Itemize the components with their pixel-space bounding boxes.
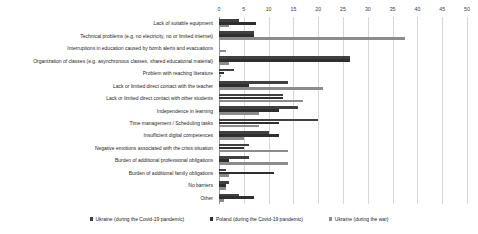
bar — [219, 150, 288, 153]
x-tick-label: 25 — [340, 5, 346, 13]
category-label: Time management / Scheduling tasks — [130, 120, 213, 126]
chart-legend: Ukraine (during the Covid-19 pandemic)Po… — [0, 212, 478, 226]
bar — [219, 25, 229, 28]
bar — [219, 137, 244, 140]
category-label: Lack of suitable equipment — [154, 20, 213, 26]
bar — [219, 75, 221, 78]
x-tick-label: 30 — [365, 5, 371, 13]
bar — [219, 59, 350, 62]
bar-group — [219, 17, 467, 29]
bar — [219, 100, 303, 103]
category-label: Problem with reaching literature — [143, 70, 213, 76]
legend-item[interactable]: Ukraine (during the Covid-19 pandemic) — [90, 216, 185, 223]
plot-area — [219, 17, 467, 204]
bar-group — [219, 154, 467, 166]
category-label: Burden of additional professional obliga… — [115, 157, 213, 163]
bar — [219, 50, 226, 53]
legend-item[interactable]: Poland (during the Covid-19 pandemic) — [210, 216, 303, 223]
x-tick-label: 10 — [266, 5, 272, 13]
x-axis-tick-labels: 05101520253035404550 — [219, 5, 467, 17]
category-axis-labels: Lack of suitable equipmentTechnical prob… — [0, 17, 216, 204]
bar-group — [219, 92, 467, 104]
x-tick-label: 20 — [315, 5, 321, 13]
category-label: No barriers — [188, 182, 213, 188]
x-tick-label: 45 — [439, 5, 445, 13]
bar — [219, 125, 259, 128]
category-label: Lack or limited direct contact with the … — [113, 83, 213, 89]
category-label: Technical problems (e.g. no electricity,… — [80, 33, 213, 39]
category-label: Insufficient digital competences — [144, 132, 213, 138]
legend-item[interactable]: Ukraine (during the war) — [329, 216, 389, 223]
bar — [219, 112, 259, 115]
category-label: Independence in learning — [157, 108, 213, 114]
bar — [219, 162, 288, 165]
bar — [219, 187, 226, 190]
x-tick-label: 50 — [464, 5, 470, 13]
category-label: Organization of classes (e.g. asynchrono… — [33, 58, 213, 64]
x-tick-label: 15 — [291, 5, 297, 13]
x-tick-label: 0 — [218, 5, 221, 13]
category-label: Negative emotions associated with the cr… — [95, 145, 213, 151]
bar-group — [219, 54, 467, 66]
x-tick-label: 40 — [415, 5, 421, 13]
legend-swatch-icon — [329, 217, 332, 220]
bar-group — [219, 42, 467, 54]
category-label: Interruptions in education caused by bom… — [67, 45, 213, 51]
gridline — [467, 17, 468, 204]
bar — [219, 87, 323, 90]
bar-group — [219, 104, 467, 116]
legend-label: Poland (during the Covid-19 pandemic) — [216, 216, 303, 223]
bar — [219, 199, 224, 202]
bar-group — [219, 117, 467, 129]
category-label: Lack or limited direct contact with othe… — [106, 95, 213, 101]
category-label: Other — [200, 195, 213, 201]
legend-swatch-icon — [90, 217, 93, 220]
bar — [219, 37, 405, 40]
x-tick-label: 5 — [242, 5, 245, 13]
legend-label: Ukraine (during the Covid-19 pandemic) — [95, 216, 184, 223]
bar-group — [219, 167, 467, 179]
bar — [219, 62, 229, 65]
bar-group — [219, 129, 467, 141]
x-tick-label: 35 — [390, 5, 396, 13]
legend-label: Ukraine (during the war) — [335, 216, 389, 223]
legend-swatch-icon — [210, 217, 213, 220]
category-label: Burden of additional family obligations — [129, 170, 213, 176]
bar-group — [219, 29, 467, 41]
bar-group — [219, 179, 467, 191]
bar — [219, 196, 254, 199]
bar-chart: 05101520253035404550 Lack of suitable eq… — [0, 0, 478, 234]
bar-group — [219, 79, 467, 91]
bar-group — [219, 142, 467, 154]
bar-group — [219, 67, 467, 79]
bar-group — [219, 192, 467, 204]
bar — [219, 174, 229, 177]
